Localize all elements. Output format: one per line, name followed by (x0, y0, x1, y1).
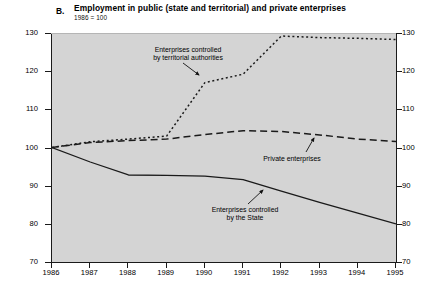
y-tick-mark (45, 71, 51, 72)
y-tick-label-left-100: 100 (14, 143, 38, 152)
y-tick-label-right-100: 100 (402, 143, 426, 152)
x-tick-label-1995: 1995 (375, 268, 415, 277)
y-tick-label-right-130: 130 (402, 28, 426, 37)
y-tick-mark (45, 109, 51, 110)
annotation-arrow-layer (183, 63, 314, 204)
y-tick-label-left-90: 90 (14, 181, 38, 190)
annotation-territorial-authorities: Enterprises controlledby territorial aut… (153, 46, 223, 62)
x-tick-label-1989: 1989 (146, 268, 186, 277)
x-tick-mark (280, 263, 281, 268)
y-tick-label-left-80: 80 (14, 219, 38, 228)
x-tick-label-1992: 1992 (260, 268, 300, 277)
x-tick-mark (204, 263, 205, 268)
x-tick-label-1987: 1987 (69, 268, 109, 277)
x-tick-label-1986: 1986 (31, 268, 71, 277)
y-tick-mark (45, 186, 51, 187)
annotation-arrow-state-enterprises (248, 190, 263, 204)
series-line-1 (52, 131, 396, 148)
annotation-state-enterprises: Enterprises controlledby the State (212, 206, 279, 222)
panel-letter: B. (56, 6, 64, 16)
y-tick-mark (396, 262, 402, 263)
y-tick-mark (396, 33, 402, 34)
x-tick-label-1988: 1988 (107, 268, 147, 277)
y-tick-mark (396, 148, 402, 149)
y-tick-mark (396, 186, 402, 187)
y-tick-label-right-80: 80 (402, 219, 426, 228)
y-tick-label-right-120: 120 (402, 66, 426, 75)
annotation-line: Private enterprises (263, 155, 320, 163)
y-tick-label-left-120: 120 (14, 66, 38, 75)
x-tick-label-1994: 1994 (337, 268, 377, 277)
x-tick-mark (51, 263, 52, 268)
series-line-0 (52, 36, 396, 147)
x-tick-label-1991: 1991 (222, 268, 262, 277)
x-tick-mark (395, 263, 396, 268)
x-axis-line (51, 262, 396, 263)
y-tick-label-left-130: 130 (14, 28, 38, 37)
annotation-line: Enterprises controlled (212, 206, 279, 214)
y-tick-mark (396, 224, 402, 225)
x-tick-mark (166, 263, 167, 268)
y-tick-label-right-90: 90 (402, 181, 426, 190)
y-tick-mark (396, 109, 402, 110)
x-tick-mark (127, 263, 128, 268)
annotation-arrow-private-enterprises (306, 138, 314, 152)
chart-figure: B. Employment in public (state and terri… (0, 0, 438, 281)
y-tick-label-right-110: 110 (402, 104, 426, 113)
annotation-arrow-territorial-authorities (183, 63, 199, 75)
x-tick-mark (357, 263, 358, 268)
x-tick-mark (319, 263, 320, 268)
plot-area (51, 33, 397, 262)
x-tick-label-1990: 1990 (184, 268, 224, 277)
y-tick-mark (45, 148, 51, 149)
x-tick-mark (242, 263, 243, 268)
chart-subtitle: 1986 = 100 (74, 14, 416, 21)
x-tick-label-1993: 1993 (299, 268, 339, 277)
annotation-line: by the State (212, 214, 279, 222)
plot-canvas (52, 33, 396, 262)
annotation-line: by territorial authorities (153, 54, 223, 62)
y-tick-mark (396, 71, 402, 72)
x-tick-mark (89, 263, 90, 268)
plot-top-edge (51, 33, 396, 34)
y-tick-label-right-70: 70 (402, 257, 426, 266)
series-layer (52, 36, 396, 224)
y-tick-label-left-70: 70 (14, 257, 38, 266)
annotation-private-enterprises: Private enterprises (263, 155, 320, 163)
title-block: B. Employment in public (state and terri… (56, 3, 416, 21)
y-tick-mark (45, 224, 51, 225)
annotation-line: Enterprises controlled (153, 46, 223, 54)
y-tick-label-left-110: 110 (14, 104, 38, 113)
chart-title: Employment in public (state and territor… (74, 3, 416, 13)
